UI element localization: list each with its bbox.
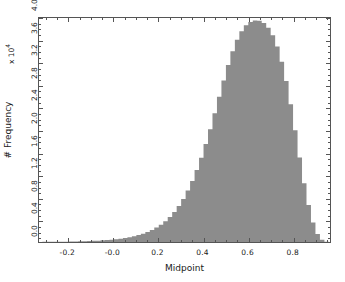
y-tick-minor bbox=[39, 114, 41, 115]
x-tick-minor bbox=[125, 240, 126, 242]
y-tick-major bbox=[39, 131, 43, 132]
x-tick-minor bbox=[102, 240, 103, 242]
y-tick-major-right bbox=[326, 18, 330, 19]
y-tick-minor bbox=[39, 182, 41, 183]
y-tick-minor-right bbox=[328, 227, 330, 228]
x-tick-minor-top bbox=[316, 18, 317, 20]
x-tick-minor bbox=[327, 240, 328, 242]
y-tick-minor-right bbox=[328, 165, 330, 166]
x-tick-minor bbox=[316, 240, 317, 242]
y-tick-minor-right bbox=[328, 46, 330, 47]
y-tick-minor-right bbox=[328, 216, 330, 217]
y-tick-minor-right bbox=[328, 238, 330, 239]
y-tick-minor bbox=[39, 216, 41, 217]
y-tick-minor bbox=[39, 165, 41, 166]
y-tick-minor bbox=[39, 188, 41, 189]
y-tick-minor bbox=[39, 46, 41, 47]
y-tick-minor-right bbox=[328, 142, 330, 143]
x-tick-major bbox=[294, 238, 295, 242]
y-tick-minor bbox=[39, 227, 41, 228]
y-tick-minor bbox=[39, 159, 41, 160]
x-tick-minor bbox=[181, 240, 182, 242]
y-tick-major-right bbox=[326, 221, 330, 222]
x-tick-minor bbox=[57, 240, 58, 242]
x-tick-minor bbox=[215, 240, 216, 242]
x-tick-minor bbox=[305, 240, 306, 242]
y-tick-minor-right bbox=[328, 210, 330, 211]
y-tick-major-right bbox=[326, 131, 330, 132]
y-tick-minor bbox=[39, 24, 41, 25]
y-tick-minor bbox=[39, 35, 41, 36]
x-tick-major-top bbox=[249, 18, 250, 22]
y-tick-minor bbox=[39, 171, 41, 172]
y-tick-minor-right bbox=[328, 97, 330, 98]
y-tick-minor bbox=[39, 29, 41, 30]
y-axis-title: # Frequency bbox=[2, 17, 14, 243]
y-tick-minor-right bbox=[328, 159, 330, 160]
x-tick-major bbox=[249, 238, 250, 242]
x-tick-minor-top bbox=[215, 18, 216, 20]
x-tick-minor bbox=[192, 240, 193, 242]
y-tick-minor-right bbox=[328, 233, 330, 234]
plot-area bbox=[38, 17, 331, 243]
y-tick-minor bbox=[39, 238, 41, 239]
x-tick-minor-top bbox=[192, 18, 193, 20]
y-tick-minor-right bbox=[328, 29, 330, 30]
y-tick-minor bbox=[39, 204, 41, 205]
y-tick-minor-right bbox=[328, 58, 330, 59]
x-tick-minor bbox=[237, 240, 238, 242]
y-tick-major-right bbox=[326, 108, 330, 109]
y-tick-minor-right bbox=[328, 114, 330, 115]
y-axis-title-text: # Frequency bbox=[3, 102, 13, 159]
y-tick-minor bbox=[39, 210, 41, 211]
y-tick-minor bbox=[39, 52, 41, 53]
y-tick-major bbox=[39, 108, 43, 109]
y-tick-minor-right bbox=[328, 120, 330, 121]
x-tick-minor bbox=[282, 240, 283, 242]
x-tick-major-top bbox=[158, 18, 159, 22]
x-tick-minor bbox=[136, 240, 137, 242]
x-tick-minor-top bbox=[80, 18, 81, 20]
x-tick-minor-top bbox=[170, 18, 171, 20]
y-tick-major-right bbox=[326, 63, 330, 64]
y-tick-minor-right bbox=[328, 204, 330, 205]
y-tick-minor-right bbox=[328, 125, 330, 126]
y-tick-minor-right bbox=[328, 188, 330, 189]
y-tick-major-right bbox=[326, 199, 330, 200]
y-tick-major-right bbox=[326, 176, 330, 177]
x-tick-major bbox=[68, 238, 69, 242]
x-tick-major-top bbox=[68, 18, 69, 22]
x-tick-major-top bbox=[204, 18, 205, 22]
x-tick-label: -0.0 bbox=[105, 248, 120, 257]
x-tick-minor-top bbox=[46, 18, 47, 20]
y-tick-major bbox=[39, 86, 43, 87]
y-tick-minor bbox=[39, 193, 41, 194]
y-tick-minor bbox=[39, 142, 41, 143]
x-tick-major-top bbox=[294, 18, 295, 22]
x-tick-label: 0.2 bbox=[151, 248, 164, 257]
y-tick-minor-right bbox=[328, 103, 330, 104]
y-tick-minor bbox=[39, 148, 41, 149]
y-tick-major-right bbox=[326, 86, 330, 87]
y-tick-major bbox=[39, 18, 43, 19]
x-tick-major bbox=[204, 238, 205, 242]
x-tick-minor-top bbox=[57, 18, 58, 20]
x-tick-minor-top bbox=[305, 18, 306, 20]
x-tick-minor bbox=[147, 240, 148, 242]
y-tick-major bbox=[39, 41, 43, 42]
y-tick-major-right bbox=[326, 154, 330, 155]
y-tick-minor bbox=[39, 58, 41, 59]
x-tick-minor-top bbox=[102, 18, 103, 20]
y-tick-minor-right bbox=[328, 24, 330, 25]
x-axis-title-text: Midpoint bbox=[165, 263, 204, 273]
x-tick-minor-top bbox=[226, 18, 227, 20]
x-tick-minor bbox=[170, 240, 171, 242]
x-tick-label: -0.2 bbox=[60, 248, 75, 257]
y-tick-minor-right bbox=[328, 69, 330, 70]
y-tick-minor-right bbox=[328, 148, 330, 149]
y-tick-minor bbox=[39, 80, 41, 81]
x-tick-major bbox=[113, 238, 114, 242]
histogram-figure: x 104 # Frequency -0.2-0.00.20.40.60.80.… bbox=[0, 0, 345, 282]
y-tick-minor bbox=[39, 233, 41, 234]
y-tick-minor-right bbox=[328, 137, 330, 138]
